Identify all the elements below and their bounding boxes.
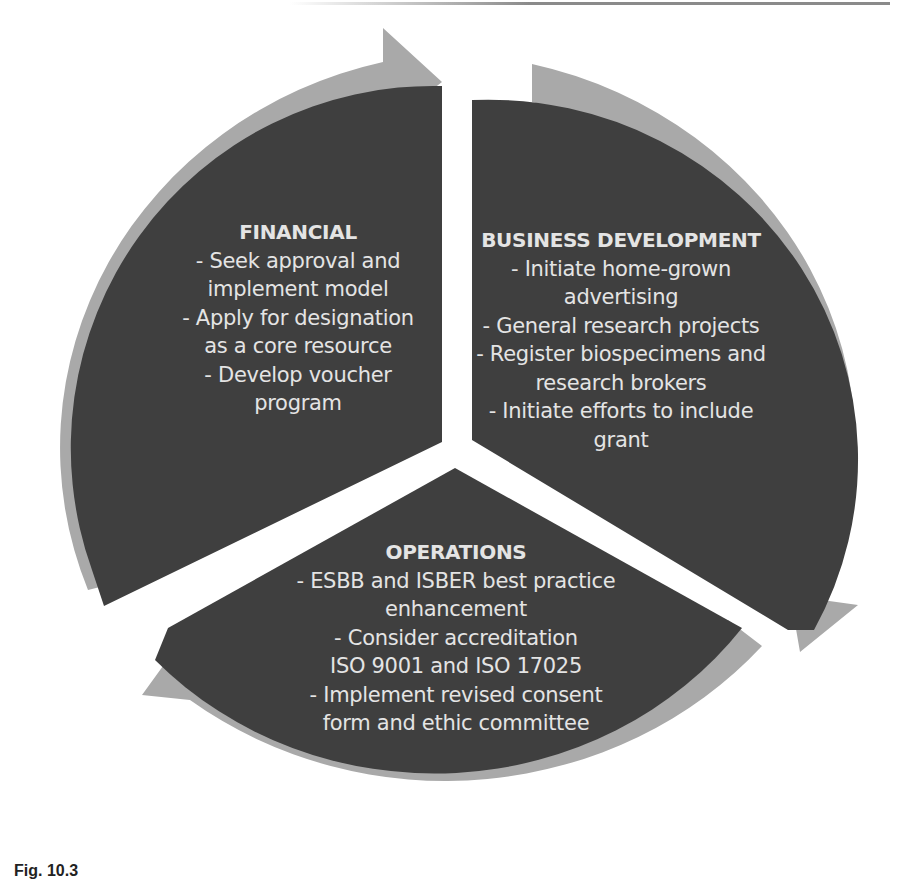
operations-item: ISO 9001 and ISO 17025 <box>296 652 616 681</box>
operations-text: OPERATIONS - ESBB and ISBER best practic… <box>296 538 616 738</box>
operations-item: - ESBB and ISBER best practice <box>296 567 616 596</box>
operations-item: - Implement revised consent <box>296 681 616 710</box>
financial-item: as a core resource <box>178 332 418 361</box>
operations-item: - Consider accreditation <box>296 624 616 653</box>
business-development-item: - Initiate home-grown <box>476 255 766 284</box>
business-development-item: - Register biospecimens and <box>476 340 766 369</box>
operations-item: form and ethic committee <box>296 709 616 738</box>
business-development-text: BUSINESS DEVELOPMENT - Initiate home-gro… <box>476 226 766 454</box>
operations-title: OPERATIONS <box>296 538 616 567</box>
financial-item: program <box>178 389 418 418</box>
financial-item: - Seek approval and <box>178 247 418 276</box>
figure-caption: Fig. 10.3 <box>14 862 78 880</box>
operations-item: enhancement <box>296 595 616 624</box>
business-development-title: BUSINESS DEVELOPMENT <box>476 226 766 255</box>
business-development-item: research brokers <box>476 369 766 398</box>
financial-item: - Apply for designation <box>178 304 418 333</box>
business-development-item: - General research projects <box>476 312 766 341</box>
business-development-item: advertising <box>476 283 766 312</box>
financial-title: FINANCIAL <box>178 218 418 247</box>
financial-item: - Develop voucher <box>178 361 418 390</box>
business-development-item: - Initiate efforts to include <box>476 397 766 426</box>
financial-text: FINANCIAL - Seek approval and implement … <box>178 218 418 418</box>
business-development-item: grant <box>476 426 766 455</box>
financial-item: implement model <box>178 275 418 304</box>
